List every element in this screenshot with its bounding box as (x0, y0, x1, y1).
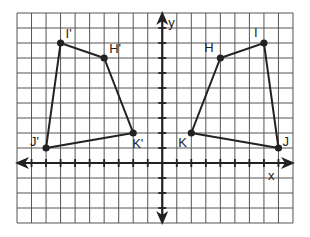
vertex-label: J (282, 134, 289, 149)
vertex-label: K' (132, 136, 143, 151)
vertex-point (57, 39, 64, 46)
vertex-point (217, 54, 224, 61)
x-axis-label: x (268, 168, 275, 183)
vertex-label: K (178, 135, 187, 150)
vertex-label: I' (66, 26, 72, 41)
vertex-label: I (254, 25, 258, 40)
vertex-point (260, 39, 267, 46)
vertex-point (101, 54, 108, 61)
vertex-label: H' (109, 41, 121, 56)
vertex-label: J' (30, 134, 39, 149)
vertex-point (188, 129, 195, 136)
vertex-label: H (204, 40, 213, 55)
coordinate-plane: xy HIJKH'I'J'K' (0, 0, 310, 237)
y-axis-label: y (168, 15, 175, 30)
vertex-point (275, 144, 282, 151)
vertex-point (42, 144, 49, 151)
